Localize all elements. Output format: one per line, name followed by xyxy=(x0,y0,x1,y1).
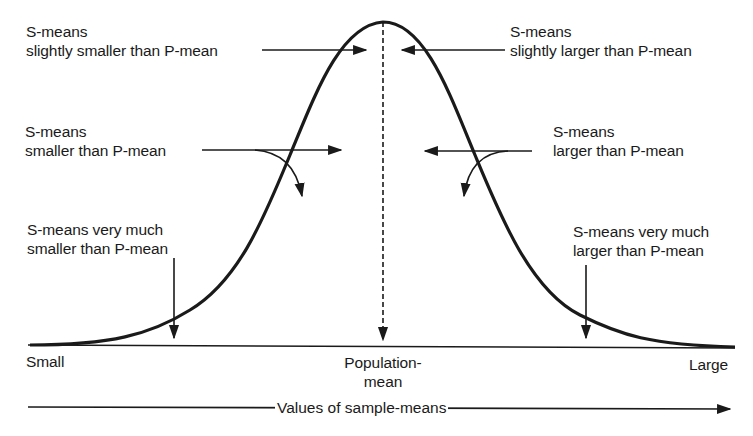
label-very-much-smaller-line1: S-means very much xyxy=(27,220,168,239)
label-very-much-smaller: S-means very much smaller than P-mean xyxy=(27,220,168,258)
population-mean-line2: mean xyxy=(318,372,448,391)
label-very-much-smaller-line2: smaller than P-mean xyxy=(27,239,168,258)
label-larger-line1: S-means xyxy=(553,122,684,141)
label-slightly-larger-line1: S-means xyxy=(510,22,692,41)
axis-title-values-of-sample-means: Values of sample-means xyxy=(275,399,448,417)
label-slightly-smaller-line2: slightly smaller than P-mean xyxy=(26,41,218,60)
label-very-much-larger-line2: larger than P-mean xyxy=(573,241,709,260)
label-slightly-larger: S-means slightly larger than P-mean xyxy=(510,22,692,60)
arrow-smaller-curved xyxy=(255,150,302,196)
baseline-axis xyxy=(28,345,735,348)
label-smaller-line1: S-means xyxy=(25,122,166,141)
axis-label-small: Small xyxy=(26,352,64,371)
arrow-larger-curved xyxy=(464,151,508,196)
axis-label-population-mean: Population- mean xyxy=(318,353,448,391)
label-smaller-line2: smaller than P-mean xyxy=(25,141,166,160)
label-smaller: S-means smaller than P-mean xyxy=(25,122,166,160)
label-slightly-smaller: S-means slightly smaller than P-mean xyxy=(26,22,218,60)
population-mean-line1: Population- xyxy=(318,353,448,372)
label-larger-line2: larger than P-mean xyxy=(553,141,684,160)
label-very-much-larger: S-means very much larger than P-mean xyxy=(573,222,709,260)
sampling-distribution-diagram: S-means slightly smaller than P-mean S-m… xyxy=(0,0,753,436)
axis-label-large: Large xyxy=(689,355,728,374)
label-slightly-smaller-line1: S-means xyxy=(26,22,218,41)
label-larger: S-means larger than P-mean xyxy=(553,122,684,160)
label-slightly-larger-line2: slightly larger than P-mean xyxy=(510,41,692,60)
label-very-much-larger-line1: S-means very much xyxy=(573,222,709,241)
